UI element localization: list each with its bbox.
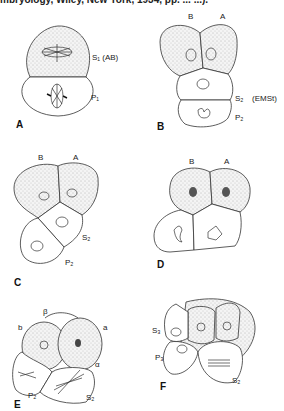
label-alpha: α — [95, 360, 100, 369]
panel-c: B A S₂ P₂ C — [14, 153, 98, 288]
panel-b: B A S₂ (EMSt) P₂ B — [157, 12, 277, 132]
panel-d: B A D — [154, 157, 250, 270]
label-a: A — [73, 153, 79, 162]
label-beta: β — [43, 307, 48, 316]
panel-e: β b a α P₂ S₂ E — [13, 307, 108, 410]
label-s2: S₂ — [82, 233, 90, 242]
panel-label-f: F — [160, 381, 166, 392]
panel-a: S₁ (AB) P₁ A — [16, 26, 119, 130]
label-p2: P₂ — [28, 391, 36, 400]
panel-label-d: D — [157, 259, 164, 270]
cell-a — [200, 25, 237, 74]
label-p3: P₃ — [155, 353, 164, 362]
label-b: B — [188, 12, 193, 21]
label-a: A — [224, 157, 230, 166]
label-a-lower: a — [103, 323, 108, 332]
label-p2: P₂ — [235, 113, 243, 122]
label-s1-ab: S₁ (AB) — [92, 53, 119, 62]
label-s2: S₂ — [232, 376, 240, 385]
label-b: B — [38, 153, 43, 162]
cell-p2 — [178, 100, 231, 127]
label-b: B — [189, 157, 194, 166]
label-emst: (EMSt) — [252, 94, 277, 103]
cell-p3 — [163, 341, 198, 374]
label-s2: S₂ — [86, 393, 94, 402]
label-s2: S₂ — [235, 94, 243, 103]
panel-label-c: C — [14, 277, 21, 288]
nucleus-icon — [189, 187, 197, 197]
panel-label-a: A — [16, 119, 23, 130]
panel-f: S₃ P₃ S₂ F — [152, 299, 255, 392]
panel-label-b: B — [157, 121, 164, 132]
label-p2: P₂ — [65, 258, 73, 267]
nucleus-icon — [75, 339, 81, 347]
label-b: b — [18, 323, 23, 332]
nucleus-icon — [222, 187, 230, 197]
panel-label-e: E — [14, 399, 21, 410]
label-p1: P₁ — [91, 93, 99, 102]
embryo-cleavage-figure: S₁ (AB) P₁ A B A S₂ (EMSt) P₂ B B A S₂ P… — [0, 0, 284, 411]
cell-beta — [45, 313, 78, 318]
label-s3: S₃ — [152, 326, 161, 335]
label-a: A — [220, 12, 226, 21]
cell-b — [160, 25, 203, 76]
cell-left-top — [188, 306, 215, 343]
